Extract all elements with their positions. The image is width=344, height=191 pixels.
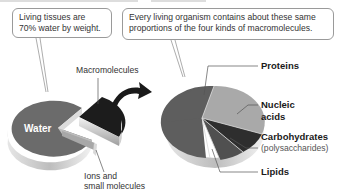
macromolecules-label: Macromolecules [76, 65, 139, 76]
ions-leader [96, 150, 104, 172]
callout-right: Every living organism contains about the… [122, 8, 334, 40]
callout-left-line1: Living tissues are [19, 12, 105, 23]
callout-left: Living tissues are 70% water by weight. [12, 8, 112, 38]
callout-right-line1: Every living organism contains about the… [129, 12, 327, 23]
lipids-label: Lipids [261, 166, 289, 177]
left-callout-pointer [36, 38, 48, 92]
callout-left-line2: 70% water by weight. [19, 23, 105, 34]
proteins-label: Proteins [261, 60, 299, 71]
water-label: Water [24, 123, 51, 134]
callout-right-line2: proportions of the four kinds of macromo… [129, 23, 327, 34]
right-callout-pointer [171, 40, 185, 77]
right-pie-chart [161, 86, 265, 168]
carbs-sub-label: (polysaccharides) [261, 143, 328, 154]
arrow-icon [112, 82, 152, 106]
nucleic-label-line2: acids [261, 111, 285, 122]
ions-label-line2: small molecules [84, 181, 145, 191]
carbs-label: Carbohydrates [261, 131, 328, 142]
nucleic-label-line1: Nucleic [261, 99, 295, 110]
